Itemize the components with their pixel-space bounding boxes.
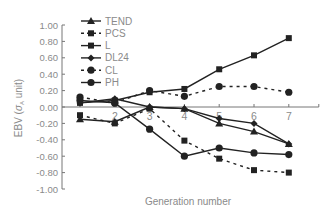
- legend-label: PCS: [105, 28, 126, 39]
- data-point-circle-marker: [250, 149, 257, 156]
- data-point-square-marker: [216, 66, 222, 72]
- data-point-square-marker: [251, 167, 257, 173]
- y-tick-label: -1.00: [36, 184, 58, 195]
- data-point-circle-marker: [285, 151, 292, 158]
- chart-container: 1.000.800.600.400.200.00-0.20-0.40-0.60-…: [0, 0, 324, 212]
- y-tick-label: 0.80: [40, 36, 59, 47]
- data-point-square-marker: [181, 138, 187, 144]
- y-tick-label: 0.40: [40, 69, 59, 80]
- data-point-circle-marker: [146, 87, 153, 94]
- data-point-circle-marker: [285, 89, 292, 96]
- legend-label: TEND: [105, 16, 132, 27]
- data-point-square-marker: [77, 112, 83, 118]
- legend-label: CL: [105, 65, 118, 76]
- data-point-circle-marker: [146, 126, 153, 133]
- line-chart: 1.000.800.600.400.200.00-0.20-0.40-0.60-…: [0, 0, 324, 212]
- data-point-square-marker: [286, 35, 292, 41]
- legend-circle-icon: [87, 79, 94, 86]
- data-point-circle-marker: [216, 144, 223, 151]
- legend: TENDPCSLDL24CLPH: [81, 16, 132, 89]
- y-tick-label: -0.40: [36, 134, 58, 145]
- legend-square-icon: [88, 43, 94, 49]
- legend-square-icon: [88, 30, 94, 36]
- data-point-circle-marker: [216, 83, 223, 90]
- y-axis-label: EBV (σA unit): [13, 79, 25, 137]
- legend-item-dl24: DL24: [81, 52, 129, 63]
- y-tick-label: 0.00: [40, 102, 59, 113]
- legend-diamond-icon: [88, 54, 95, 61]
- data-point-square-marker: [286, 170, 292, 176]
- data-point-square-marker: [112, 120, 118, 126]
- x-axis-label: Generation number: [145, 196, 232, 207]
- data-point-square-marker: [181, 86, 187, 92]
- y-tick-label: -0.80: [36, 167, 58, 178]
- legend-label: DL24: [105, 52, 129, 63]
- data-point-circle-marker: [76, 97, 83, 104]
- legend-item-ph: PH: [81, 77, 119, 88]
- axes: 1.000.800.600.400.200.00-0.20-0.40-0.60-…: [36, 20, 318, 195]
- data-point-circle-marker: [250, 83, 257, 90]
- y-tick-label: 0.20: [40, 85, 59, 96]
- legend-item-l: L: [81, 40, 111, 51]
- data-point-square-marker: [216, 156, 222, 162]
- data-point-circle-marker: [181, 153, 188, 160]
- y-tick-label: 0.60: [40, 52, 59, 63]
- legend-circle-icon: [87, 67, 94, 74]
- y-tick-label: -0.60: [36, 151, 58, 162]
- legend-label: PH: [105, 77, 119, 88]
- y-tick-label: 1.00: [40, 20, 59, 31]
- legend-item-tend: TEND: [81, 16, 132, 27]
- data-point-circle-marker: [111, 99, 118, 106]
- x-tick-label: 7: [286, 110, 292, 122]
- legend-item-cl: CL: [81, 65, 118, 76]
- legend-label: L: [105, 40, 111, 51]
- x-tick-label: 3: [147, 110, 153, 122]
- legend-item-pcs: PCS: [81, 28, 126, 39]
- y-tick-label: -0.20: [36, 118, 58, 129]
- data-point-square-marker: [251, 52, 257, 58]
- data-point-circle-marker: [181, 93, 188, 100]
